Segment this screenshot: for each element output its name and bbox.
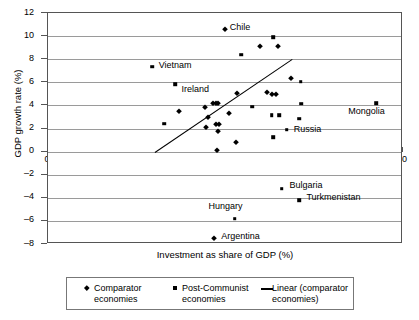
point-label: Turkmenistan	[306, 193, 360, 202]
legend-square-icon	[173, 286, 177, 290]
data-point-diamond	[273, 91, 278, 96]
data-point-diamond	[212, 236, 217, 241]
data-point-square	[278, 113, 282, 117]
point-label: Russia	[294, 125, 322, 134]
y-tick-label: 12	[8, 8, 34, 17]
data-point-diamond	[227, 111, 232, 116]
point-label: Bulgaria	[289, 181, 322, 190]
gridline	[48, 82, 401, 83]
y-tick-label: –2	[8, 169, 34, 178]
legend-entry-1: Comparatoreconomies	[85, 283, 142, 305]
y-tick-label: 0	[8, 146, 34, 155]
legend-label: Comparatoreconomies	[94, 283, 142, 305]
gridline	[48, 152, 401, 153]
data-point-square	[173, 82, 177, 86]
data-point-square	[300, 102, 304, 106]
x-tickmark	[402, 147, 403, 152]
data-point-diamond	[222, 27, 227, 32]
y-tick-label: –8	[8, 239, 34, 248]
point-label: Chile	[230, 23, 251, 32]
gridline	[48, 221, 401, 222]
point-label: Argentina	[221, 232, 260, 241]
point-label: Ireland	[181, 85, 209, 94]
y-tick-label: 6	[8, 77, 34, 86]
data-point-diamond	[217, 121, 222, 126]
data-point-square	[374, 101, 378, 105]
y-tick-label: 10	[8, 31, 34, 40]
plot-area: ChileVietnamIrelandMongoliaRussiaBulgari…	[47, 12, 402, 243]
data-point-square	[271, 35, 275, 39]
data-point-square	[280, 187, 284, 191]
legend-label-line2: economies	[182, 294, 249, 305]
legend-entry-3: Linear (comparatoreconomies)	[263, 283, 348, 305]
data-point-square	[233, 217, 237, 221]
scatter-chart-figure: GDP growth rate (%) Investment as share …	[0, 0, 419, 320]
gridline	[48, 59, 401, 60]
data-point-square	[299, 80, 303, 84]
legend-label-line2: economies)	[272, 294, 348, 305]
gridline	[48, 36, 401, 37]
data-point-square	[163, 122, 167, 126]
data-point-square	[298, 198, 302, 202]
data-point-diamond	[215, 128, 220, 133]
y-tick-label: –6	[8, 215, 34, 224]
y-tick-label: 2	[8, 123, 34, 132]
legend-label-line1: Linear (comparator	[272, 283, 348, 294]
data-point-square	[270, 113, 274, 117]
point-label: Vietnam	[159, 61, 192, 70]
y-tick-label: 8	[8, 54, 34, 63]
x-axis-title: Investment as share of GDP (%)	[47, 249, 403, 260]
y-tick-label: –4	[8, 192, 34, 201]
data-point-diamond	[234, 140, 239, 145]
legend-diamond-icon	[84, 285, 89, 290]
data-point-diamond	[288, 75, 293, 80]
data-point-diamond	[176, 108, 181, 113]
data-point-diamond	[215, 100, 220, 105]
data-point-square	[239, 53, 243, 57]
y-tickmark	[41, 243, 47, 244]
data-point-diamond	[275, 44, 280, 49]
legend-label-line2: economies	[94, 294, 142, 305]
y-tick-label: 4	[8, 100, 34, 109]
data-point-diamond	[257, 44, 262, 49]
point-label: Mongolia	[348, 107, 385, 116]
legend-label-line1: Comparator	[94, 283, 142, 294]
data-point-square	[285, 128, 289, 132]
legend-label: Post-Communisteconomies	[182, 283, 249, 305]
legend-label-line1: Post-Communist	[182, 283, 249, 294]
data-point-square	[251, 105, 255, 109]
data-point-square	[151, 65, 155, 69]
gridline	[48, 129, 401, 130]
data-point-square	[271, 135, 275, 139]
chart-legend: ComparatoreconomiesPost-Communisteconomi…	[66, 277, 354, 310]
gridline	[48, 175, 401, 176]
data-point-square	[298, 117, 302, 121]
legend-entry-2: Post-Communisteconomies	[173, 283, 249, 305]
point-label: Hungary	[208, 202, 242, 211]
legend-label: Linear (comparatoreconomies)	[272, 283, 348, 305]
y-axis-title: GDP growth rate (%)	[12, 14, 23, 214]
legend-line-icon	[261, 288, 273, 290]
